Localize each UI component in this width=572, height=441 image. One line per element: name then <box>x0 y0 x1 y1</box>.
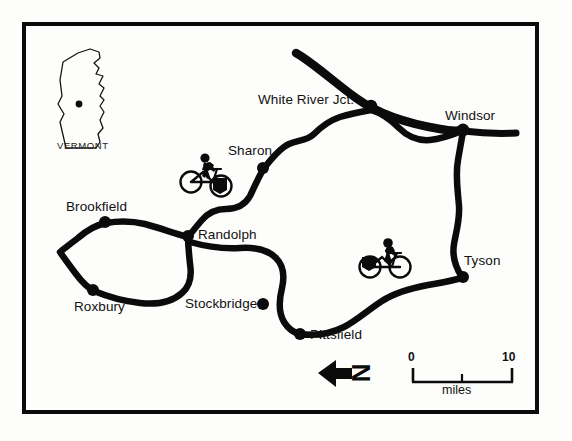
city-dot-tyson[interactable] <box>457 271 469 283</box>
city-dot-windsor[interactable] <box>457 124 470 137</box>
road-randolph-to-brookfield <box>106 222 188 237</box>
vermont-outline-icon <box>58 49 104 148</box>
road-roxbury-to-randolph-south <box>94 237 191 304</box>
city-label-windsor[interactable]: Windsor <box>445 108 495 123</box>
scale-bar-graphic <box>412 368 513 382</box>
city-dot-roxbury[interactable] <box>87 284 99 296</box>
city-label-pittsfield[interactable]: Pittsfield <box>310 327 362 342</box>
city-dot-randolph[interactable] <box>182 230 194 242</box>
city-label-brookfield[interactable]: Brookfield <box>66 199 127 214</box>
road-wrj-to-sharon <box>265 110 371 167</box>
city-label-white-river-jct[interactable]: White River Jct. <box>258 92 354 107</box>
north-arrow-letter: N <box>348 364 374 383</box>
city-dot-pittsfield[interactable] <box>294 328 306 340</box>
city-dot-sharon[interactable] <box>257 162 269 174</box>
map-figure: VERMONT White River Jct. Windsor Sharon … <box>0 0 572 441</box>
city-label-sharon[interactable]: Sharon <box>228 143 272 158</box>
city-label-roxbury[interactable]: Roxbury <box>74 299 125 314</box>
city-label-randolph[interactable]: Randolph <box>198 227 257 242</box>
bicycle-icon-west <box>181 153 232 196</box>
city-dot-white-river-jct[interactable] <box>365 100 377 112</box>
city-label-tyson[interactable]: Tyson <box>464 253 501 268</box>
bicycle-icon-east <box>360 238 411 277</box>
road-tyson-to-windsor <box>453 131 463 277</box>
road-randolph-to-pittsfield <box>190 242 300 334</box>
vermont-inset-caption: VERMONT <box>57 140 109 151</box>
scale-bar-unit-label: miles <box>442 383 471 397</box>
scale-bar-min-label: 0 <box>408 350 415 364</box>
scale-bar-max-label: 10 <box>502 350 515 364</box>
city-dot-stockbridge[interactable] <box>257 298 269 310</box>
vermont-inset-locator-dot <box>76 101 83 108</box>
road-windsor-east-spur <box>463 131 516 133</box>
map-graphics <box>0 0 572 441</box>
city-label-stockbridge[interactable]: Stockbridge <box>185 296 257 311</box>
city-dot-brookfield[interactable] <box>99 216 111 228</box>
road-brookfield-roxbury-west <box>60 223 106 291</box>
